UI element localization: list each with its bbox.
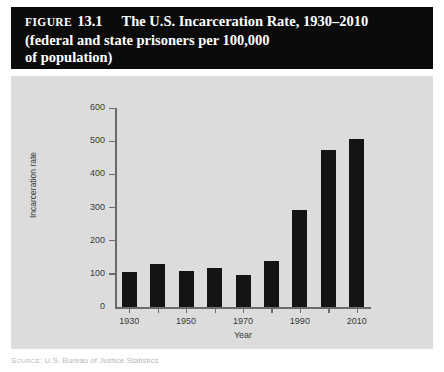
chart-bar (349, 139, 364, 307)
y-axis-title: Incarceration rate (28, 137, 38, 233)
y-axis-tick-label-text: 100 (79, 269, 105, 278)
y-axis-tick-label: 600 (79, 103, 105, 112)
y-axis-tick-label-text: 500 (79, 136, 105, 145)
y-axis-tick-label: 0 (79, 302, 105, 311)
y-axis-tick (109, 174, 115, 175)
x-axis-tick (328, 308, 329, 313)
y-axis-tick (109, 273, 115, 274)
figure-title-text-3: of population) (25, 49, 423, 67)
y-axis-tick (109, 240, 115, 241)
y-axis-tick-label: 400 (79, 169, 105, 178)
x-axis-tick (243, 308, 244, 313)
figure-number: 13.1 (77, 13, 102, 31)
source-label: Source: (11, 356, 42, 365)
figure-title-text-2: (federal and state prisoners per 100,000 (25, 32, 423, 50)
y-axis-tick (109, 108, 115, 109)
chart-bar (207, 268, 222, 307)
x-axis-tick (300, 308, 301, 313)
figure-title-banner: Figure 13.1 The U.S. Incarceration Rate,… (11, 7, 433, 69)
y-axis-tick-label-text: 200 (79, 236, 105, 245)
y-axis-tick-label-text: 600 (79, 103, 105, 112)
y-axis-tick-label: 300 (79, 203, 105, 212)
x-axis-tick-label: 1970 (223, 316, 263, 326)
x-axis-tick (357, 308, 358, 313)
y-axis-tick-label: 200 (79, 236, 105, 245)
chart-bar (122, 272, 137, 307)
chart-bar (264, 261, 279, 307)
y-axis-tick-label-text: 0 (79, 302, 105, 311)
x-axis-tick-label: 1950 (166, 316, 206, 326)
chart-bar (150, 264, 165, 307)
chart-panel: Incarceration rate Year 0100200300400500… (11, 76, 433, 349)
chart-bar (179, 271, 194, 307)
source-note: Source: U.S. Bureau of Justice Statistic… (11, 356, 433, 368)
x-axis-tick (129, 308, 130, 313)
y-axis-tick (109, 207, 115, 208)
y-axis-tick-label-text: 300 (79, 203, 105, 212)
y-axis-tick (109, 141, 115, 142)
y-axis-tick-label: 100 (79, 269, 105, 278)
chart-plot-area: Incarceration rate Year 0100200300400500… (11, 76, 433, 349)
figure-container: Figure 13.1 The U.S. Incarceration Rate,… (0, 0, 444, 372)
chart-bar (292, 210, 307, 307)
x-axis-tick (186, 308, 187, 313)
x-axis-tick (158, 308, 159, 313)
figure-label: Figure (25, 14, 72, 32)
x-axis-tick-label: 1990 (280, 316, 320, 326)
x-axis-tick (215, 308, 216, 313)
source-text: U.S. Bureau of Justice Statistics (45, 356, 159, 365)
x-axis-tick-label: 2010 (337, 316, 377, 326)
y-axis-tick-label: 500 (79, 136, 105, 145)
y-axis-line (115, 108, 117, 308)
figure-title-first-line: Figure 13.1 The U.S. Incarceration Rate,… (25, 13, 423, 32)
x-axis-tick-label: 1930 (109, 316, 149, 326)
chart-bar (236, 275, 251, 307)
y-axis-tick-label-text: 400 (79, 169, 105, 178)
x-axis-title: Year (115, 330, 371, 340)
chart-bar (321, 150, 336, 307)
x-axis-tick (271, 308, 272, 313)
figure-title-text-1: The U.S. Incarceration Rate, 1930–2010 (122, 13, 369, 31)
